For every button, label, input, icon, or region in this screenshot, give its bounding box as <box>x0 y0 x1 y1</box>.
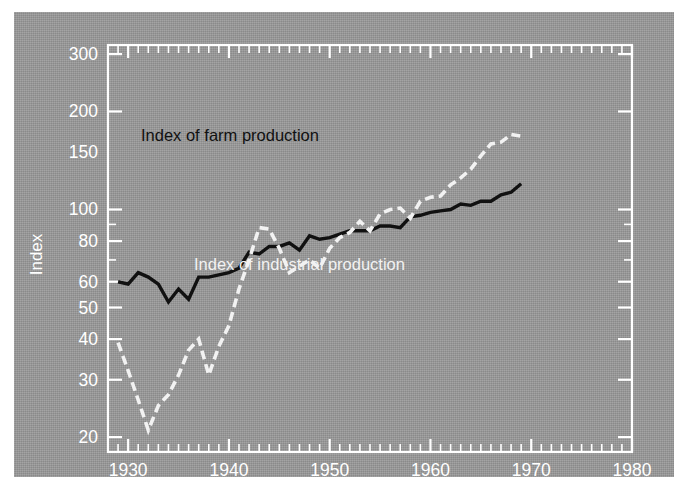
x-tick-label: 1980 <box>613 460 652 477</box>
y-tick-label: 40 <box>79 329 99 349</box>
y-tick-label: 20 <box>79 427 99 447</box>
chart-panel: 203040506080100150200300 193019401950196… <box>14 12 674 477</box>
y-tick-labels: 203040506080100150200300 <box>69 44 98 447</box>
x-tick-label: 1950 <box>310 460 349 477</box>
industrial-series-label: Index of industrial production <box>194 255 405 273</box>
figure-container: 203040506080100150200300 193019401950196… <box>0 0 689 496</box>
y-tick-label: 150 <box>69 142 98 162</box>
axis-ticks <box>108 45 632 452</box>
series-line-farm <box>118 184 521 302</box>
y-tick-label: 300 <box>69 44 98 64</box>
chart-plot: 203040506080100150200300 193019401950196… <box>14 12 674 477</box>
series-line-industrial <box>118 134 521 430</box>
series-annotations: Index of farm productionIndex of industr… <box>141 126 405 273</box>
x-tick-label: 1970 <box>512 460 551 477</box>
x-tick-label: 1960 <box>411 460 450 477</box>
y-axis-title-text: Index <box>27 233 46 275</box>
y-tick-label: 80 <box>79 231 99 251</box>
y-tick-label: 30 <box>79 370 99 390</box>
data-series <box>118 134 521 430</box>
y-tick-label: 50 <box>79 298 99 318</box>
x-tick-label: 1940 <box>209 460 248 477</box>
plot-frame <box>108 45 632 452</box>
y-tick-label: 100 <box>69 199 98 219</box>
y-tick-label: 60 <box>79 272 99 292</box>
x-tick-label: 1930 <box>109 460 148 477</box>
y-axis-title: Index <box>27 233 46 275</box>
farm-series-label: Index of farm production <box>141 126 319 144</box>
y-tick-label: 200 <box>69 101 98 121</box>
x-tick-labels: 193019401950196019701980 <box>109 460 652 477</box>
